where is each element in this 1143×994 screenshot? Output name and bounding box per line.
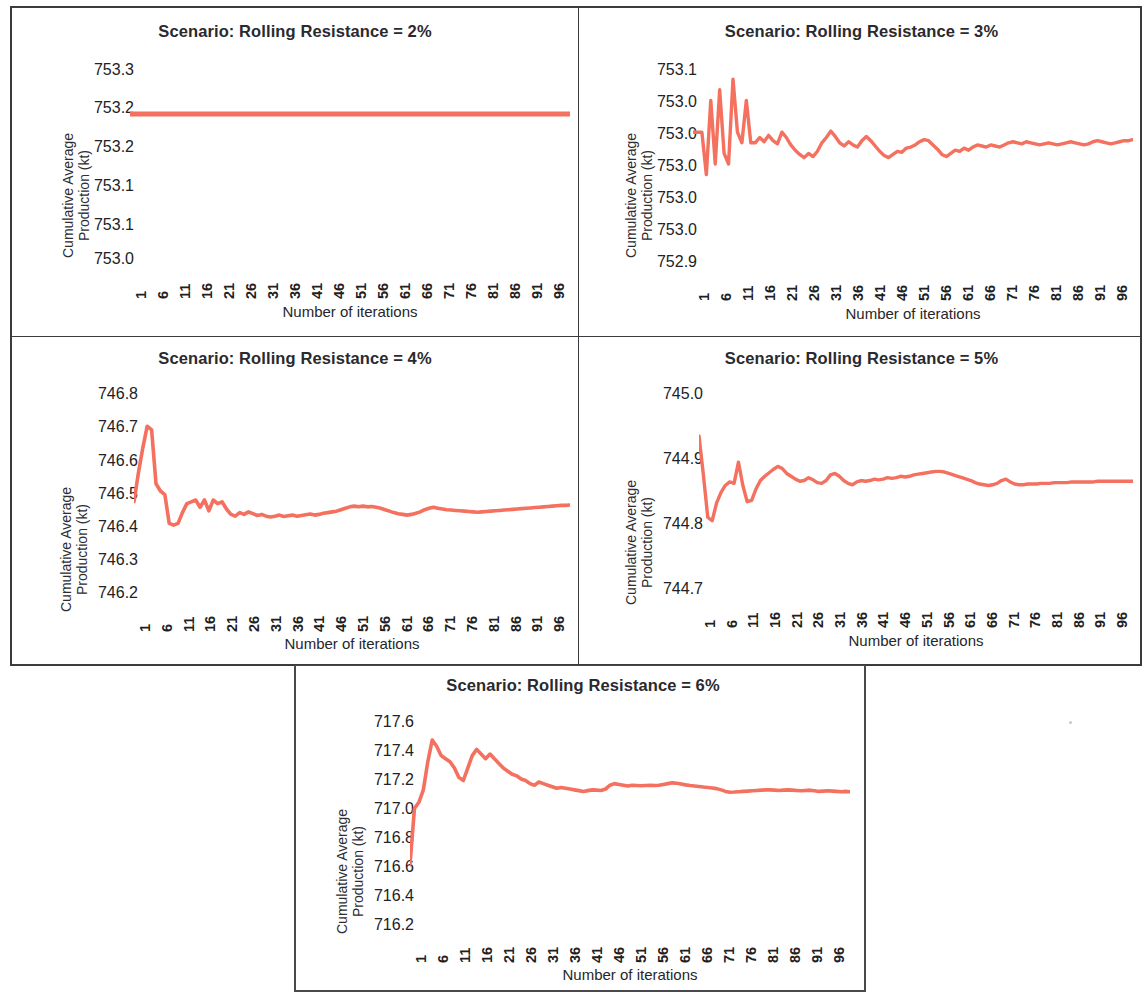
x-tick: 61 xyxy=(960,267,976,301)
x-tick: 86 xyxy=(508,598,524,632)
x-tick: 16 xyxy=(762,267,778,301)
x-tick: 1 xyxy=(696,267,712,301)
x-tick: 16 xyxy=(202,598,218,632)
panel-title: Scenario: Rolling Resistance = 4% xyxy=(12,349,578,368)
y-tick: 716.6 xyxy=(374,858,414,876)
chart-panel-rolling-resistance-4: Scenario: Rolling Resistance = 4% Cumula… xyxy=(10,336,579,666)
y-tick: 752.9 xyxy=(657,253,697,271)
x-tick: 81 xyxy=(486,598,502,632)
x-tick: 36 xyxy=(854,594,870,628)
y-tick: 746.3 xyxy=(98,551,138,569)
x-tick: 31 xyxy=(268,598,284,632)
figure-sheet: Scenario: Rolling Resistance = 2% Cumula… xyxy=(0,0,1143,994)
x-tick: 91 xyxy=(809,929,825,963)
x-tick: 26 xyxy=(810,594,826,628)
x-tick: 56 xyxy=(938,267,954,301)
scan-artifact-speck xyxy=(1069,721,1072,724)
x-tick: 16 xyxy=(767,594,783,628)
y-tick: 744.8 xyxy=(663,515,703,533)
x-axis-ticks: 16111621263136414651566166717681869196 xyxy=(134,593,570,633)
y-tick: 753.2 xyxy=(94,99,134,117)
x-tick: 46 xyxy=(897,594,913,628)
x-tick: 36 xyxy=(850,267,866,301)
x-tick: 61 xyxy=(962,594,978,628)
x-tick: 1 xyxy=(413,929,429,963)
x-tick: 41 xyxy=(872,267,888,301)
y-tick: 746.2 xyxy=(98,584,138,602)
x-tick: 16 xyxy=(479,929,495,963)
x-tick: 76 xyxy=(1026,267,1042,301)
x-tick: 36 xyxy=(290,598,306,632)
x-tick: 96 xyxy=(1114,594,1130,628)
y-tick: 717.6 xyxy=(374,713,414,731)
x-tick: 1 xyxy=(133,265,149,299)
x-tick: 11 xyxy=(457,929,473,963)
x-tick: 26 xyxy=(806,267,822,301)
y-tick: 717.0 xyxy=(374,800,414,818)
x-tick: 31 xyxy=(265,265,281,299)
x-tick: 81 xyxy=(765,929,781,963)
x-tick: 56 xyxy=(377,598,393,632)
x-tick: 71 xyxy=(442,598,458,632)
x-tick: 51 xyxy=(919,594,935,628)
x-tick: 76 xyxy=(463,265,479,299)
x-tick: 11 xyxy=(740,267,756,301)
x-tick: 91 xyxy=(1092,267,1108,301)
x-tick: 21 xyxy=(789,594,805,628)
x-tick: 31 xyxy=(828,267,844,301)
x-tick: 36 xyxy=(287,265,303,299)
plot-line-chart xyxy=(693,58,1133,270)
x-tick: 56 xyxy=(655,929,671,963)
x-tick: 26 xyxy=(243,265,259,299)
x-axis-label: Number of iterations xyxy=(410,966,850,983)
x-tick: 91 xyxy=(1092,594,1108,628)
plot-line-chart xyxy=(410,712,850,930)
x-tick: 81 xyxy=(1049,594,1065,628)
x-tick: 1 xyxy=(702,594,718,628)
x-tick: 51 xyxy=(916,267,932,301)
x-tick: 61 xyxy=(397,265,413,299)
x-axis-label: Number of iterations xyxy=(693,305,1133,322)
x-tick: 86 xyxy=(1071,594,1087,628)
y-tick: 753.3 xyxy=(94,61,134,79)
y-tick: 753.0 xyxy=(657,157,697,175)
x-tick: 71 xyxy=(441,265,457,299)
x-axis-label: Number of iterations xyxy=(134,635,570,652)
x-tick: 21 xyxy=(224,598,240,632)
y-tick: 717.2 xyxy=(374,771,414,789)
y-tick: 717.4 xyxy=(374,742,414,760)
x-tick: 86 xyxy=(787,929,803,963)
x-tick: 66 xyxy=(419,265,435,299)
x-tick: 86 xyxy=(1070,267,1086,301)
x-tick: 6 xyxy=(159,598,175,632)
y-tick: 746.8 xyxy=(98,385,138,403)
x-tick: 96 xyxy=(1114,267,1130,301)
x-axis-ticks: 16111621263136414651566166717681869196 xyxy=(410,924,850,964)
y-tick: 716.4 xyxy=(374,887,414,905)
x-tick: 96 xyxy=(551,598,567,632)
x-tick: 21 xyxy=(784,267,800,301)
x-axis-label: Number of iterations xyxy=(130,303,570,320)
y-axis-label: Cumulative Average Production (kt) xyxy=(60,133,92,258)
x-tick: 66 xyxy=(699,929,715,963)
x-tick: 26 xyxy=(246,598,262,632)
x-tick: 66 xyxy=(420,598,436,632)
x-tick: 51 xyxy=(633,929,649,963)
x-tick: 31 xyxy=(545,929,561,963)
x-tick: 6 xyxy=(155,265,171,299)
y-tick: 753.0 xyxy=(657,221,697,239)
x-tick: 46 xyxy=(894,267,910,301)
x-tick: 86 xyxy=(507,265,523,299)
chart-panel-rolling-resistance-3: Scenario: Rolling Resistance = 3% Cumula… xyxy=(578,6,1142,337)
x-tick: 46 xyxy=(333,598,349,632)
x-tick: 6 xyxy=(718,267,734,301)
y-tick: 753.1 xyxy=(657,61,697,79)
x-tick: 91 xyxy=(529,598,545,632)
x-tick: 81 xyxy=(1048,267,1064,301)
y-tick: 753.0 xyxy=(657,125,697,143)
x-tick: 36 xyxy=(567,929,583,963)
y-axis-label: Cumulative Average Production (kt) xyxy=(334,809,366,934)
x-axis-ticks: 16111621263136414651566166717681869196 xyxy=(693,262,1133,302)
x-tick: 46 xyxy=(331,265,347,299)
x-tick: 76 xyxy=(743,929,759,963)
